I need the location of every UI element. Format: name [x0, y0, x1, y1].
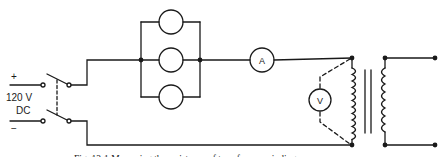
dpst-switch [47, 74, 71, 123]
positive-label: + [11, 71, 17, 82]
figure-caption: Fig. 13-1 Measuring the resistance of tr… [74, 154, 296, 157]
output-terminal [433, 56, 438, 61]
transformer-core [365, 70, 371, 133]
transformer-primary [350, 56, 356, 148]
lamp-icon [159, 10, 183, 34]
transformer-secondary [382, 56, 438, 148]
lamp-icon [159, 48, 183, 72]
ammeter-label: A [259, 56, 265, 66]
voltmeter-branch [309, 59, 350, 144]
ammeter-branch [200, 48, 352, 72]
output-terminal [433, 143, 438, 148]
dc-label: DC [16, 105, 30, 116]
lamp-bank [139, 10, 203, 109]
voltmeter-label: V [317, 96, 323, 106]
circuit-diagram: + 120 V DC − A V Fig. 13-1 Measuring the… [0, 0, 446, 157]
lamp-icon [159, 85, 183, 109]
source-terminals [10, 83, 45, 123]
voltage-label: 120 V [6, 92, 32, 103]
negative-label: − [11, 123, 17, 134]
circuit-svg: + 120 V DC − A V Fig. 13-1 Measuring the… [0, 0, 446, 157]
